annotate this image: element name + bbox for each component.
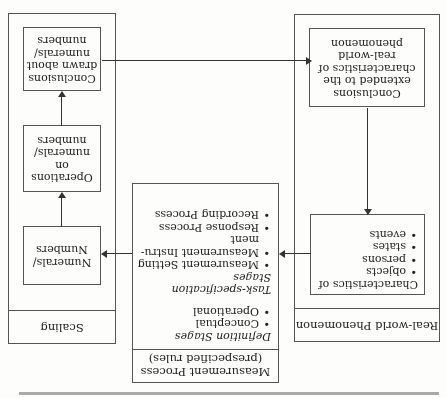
definition-item: Operational (137, 305, 259, 318)
characteristic-item: objects (317, 265, 406, 278)
measurement-title-line1: Measurement Process (133, 365, 278, 378)
real-world-title: Real-world Phenomenon (295, 319, 439, 332)
task-item: Recording Process (137, 208, 259, 221)
task-item: Measurement Instru-ment (137, 233, 259, 258)
measurement-title: Measurement Process (prespecified rules) (133, 352, 278, 378)
arrowhead-icon (279, 250, 285, 258)
task-stages-heading: Task-specification Stages (137, 271, 271, 296)
measurement-process-panel: Measurement Process (prespecified rules)… (132, 183, 279, 383)
arrowhead-icon (306, 57, 312, 65)
characteristics-heading: Characteristics of (317, 278, 418, 291)
connector-conclusions-to-real-world (102, 60, 310, 61)
conclusions-extended-box: Conclusions extended to the characterist… (309, 28, 425, 107)
operations-box: Operations on numerals/ numbers (23, 125, 101, 192)
characteristics-box: Characteristics of objects persons state… (310, 214, 425, 295)
scaling-divider (9, 310, 115, 311)
conclusions-drawn-box: Conclusions drawn about numerals/ number… (23, 27, 101, 91)
real-world-divider (295, 308, 439, 309)
task-item: Measurement Setting (137, 258, 259, 271)
connector-numerals-to-operations (61, 193, 62, 227)
scan-edge-bar (19, 392, 439, 395)
definition-item: Conceptual (137, 317, 259, 330)
characteristic-item: persons (317, 253, 406, 266)
diagram-canvas: Real-world Phenomenon Characteristics of… (0, 0, 447, 398)
arrowhead-icon (58, 91, 66, 97)
scaling-panel: Scaling Numerals/ Numbers Operations on … (8, 13, 116, 344)
measurement-divider (133, 349, 278, 350)
arrowhead-icon (58, 192, 66, 198)
measurement-stages: Definition Stages Conceptual Operational… (137, 208, 271, 342)
task-item: Response Process (137, 221, 259, 234)
arrowhead-icon (364, 209, 372, 215)
definition-stages-heading: Definition Stages (137, 330, 271, 343)
connector-characteristics-to-measurement (281, 253, 311, 254)
characteristic-item: states (317, 240, 406, 253)
scaling-title: Scaling (9, 321, 115, 334)
numerals-box: Numerals/ Numbers (23, 226, 101, 285)
connector-extended-to-characteristics (367, 108, 368, 215)
arrowhead-icon (101, 250, 107, 258)
characteristic-item: events (317, 228, 406, 241)
measurement-title-line2: (prespecified rules) (133, 352, 278, 365)
connector-operations-to-conclusions (61, 92, 62, 126)
